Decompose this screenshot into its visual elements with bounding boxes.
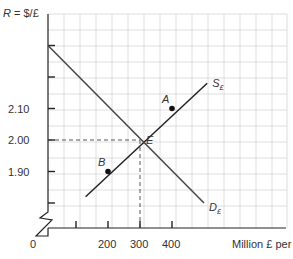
y-tick-label: 1.90	[8, 166, 29, 178]
y-axis-label-rest: = $/£	[11, 7, 39, 19]
point-label-a: A	[161, 93, 169, 105]
x-tick-label: 300	[130, 238, 148, 250]
y-tick-label: 2.00	[8, 134, 29, 146]
demand-curve	[48, 46, 204, 204]
exchange-rate-chart: R = $/£ Million £ per day 0 2.102.001.90…	[0, 0, 293, 259]
origin-label: 0	[30, 238, 36, 250]
supply-curve-label: S£	[212, 77, 224, 91]
y-tick-label: 2.10	[8, 103, 29, 115]
x-tick-label: 400	[162, 238, 180, 250]
y-axis-label: R = $/£	[3, 7, 39, 19]
ticks	[48, 46, 172, 229]
point-a	[169, 106, 175, 112]
axes	[36, 14, 286, 236]
point-label-e: E	[146, 134, 154, 146]
point-label-b: B	[98, 156, 105, 168]
dashed-guides	[48, 140, 140, 228]
x-axis-label: Million £ per day	[232, 238, 293, 250]
demand-curve-label: D£	[209, 201, 222, 215]
point-b	[105, 169, 111, 175]
x-tick-label: 200	[98, 238, 116, 250]
